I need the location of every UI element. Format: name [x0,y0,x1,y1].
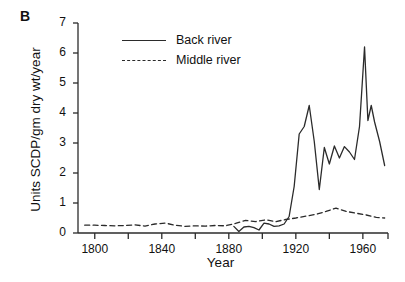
y-tick-label: 4 [44,105,66,119]
x-tick-label: 1880 [206,242,252,256]
y-tick-label: 7 [44,15,66,29]
series-line-middle-river [85,208,385,226]
series-line-back-river [234,47,385,232]
chart-figure: B Units SCDP/gm dry wt/year Year Back ri… [0,0,405,282]
y-tick-label: 5 [44,75,66,89]
y-tick-label: 0 [44,225,66,239]
x-tick-label: 1840 [139,242,185,256]
y-tick-label: 3 [44,135,66,149]
y-tick-label: 6 [44,45,66,59]
x-tick-label: 1800 [72,242,118,256]
y-tick-label: 1 [44,195,66,209]
x-tick-label: 1920 [273,242,319,256]
x-tick-label: 1960 [340,242,386,256]
y-tick-label: 2 [44,165,66,179]
